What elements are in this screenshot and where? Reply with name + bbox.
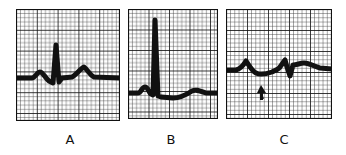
panel-label-a: A [60, 132, 80, 147]
ecg-figure: A B C [0, 0, 346, 155]
ecg-grid-c [226, 9, 332, 119]
ecg-grid-a [16, 9, 120, 121]
ecg-grid-b [128, 9, 218, 119]
ecg-panel-a [16, 9, 120, 121]
panel-label-b: B [161, 132, 181, 147]
ecg-panel-c [226, 9, 332, 119]
panel-label-c: C [274, 132, 294, 147]
ecg-panel-b [128, 9, 218, 119]
